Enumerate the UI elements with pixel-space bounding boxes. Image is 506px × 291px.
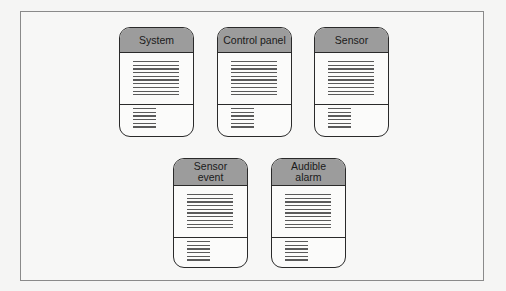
class-card-audible-alarm: Audible alarm	[271, 158, 346, 268]
class-card-sensor-event: Sensor event	[173, 158, 248, 268]
attributes-section	[133, 61, 179, 98]
class-card-sensor: Sensor	[314, 27, 389, 137]
class-name: Sensor	[335, 35, 368, 46]
operations-section	[133, 108, 156, 130]
class-name: System	[139, 35, 174, 46]
section-divider	[315, 104, 388, 105]
class-name-header: Sensor	[315, 28, 388, 53]
class-name: Control panel	[223, 35, 285, 46]
operations-section	[231, 108, 254, 130]
operations-section	[328, 108, 351, 130]
class-name: Audible alarm	[287, 161, 331, 183]
attributes-section	[328, 61, 374, 98]
attributes-section	[285, 194, 331, 231]
section-divider	[272, 237, 345, 238]
section-divider	[218, 104, 291, 105]
attributes-section	[187, 194, 233, 231]
class-card-system: System	[119, 27, 194, 137]
operations-section	[285, 241, 308, 263]
operations-section	[187, 241, 210, 263]
class-name: Sensor event	[189, 161, 233, 183]
class-name-header: Control panel	[218, 28, 291, 53]
class-name-header: Audible alarm	[272, 159, 345, 186]
class-card-control-panel: Control panel	[217, 27, 292, 137]
section-divider	[120, 104, 193, 105]
class-name-header: System	[120, 28, 193, 53]
attributes-section	[231, 61, 277, 98]
class-name-header: Sensor event	[174, 159, 247, 186]
section-divider	[174, 237, 247, 238]
